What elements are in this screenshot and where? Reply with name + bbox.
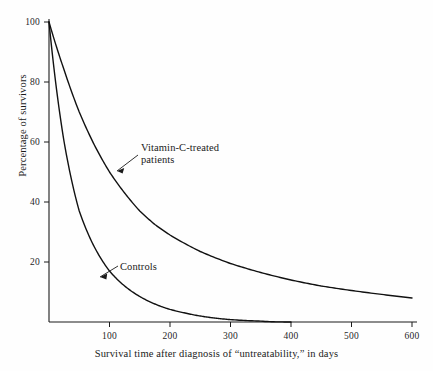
survival-curve-figure: 100 80 60 40 20 100 200 300 400 500 600 … [0,0,433,371]
annotation-controls: Controls [120,261,157,273]
x-axis-title: Survival time after diagnosis of “untrea… [0,348,433,359]
series-polyline-controls [49,22,291,322]
x-tick-label-200: 200 [163,331,178,341]
leader-line-vitamin-c [117,155,138,174]
y-tick-label-40: 40 [16,197,40,207]
y-tick-marks [44,22,49,262]
plot-svg [0,0,433,371]
x-tick-label-300: 300 [223,331,238,341]
x-tick-label-100: 100 [102,331,117,341]
y-tick-label-20: 20 [16,257,40,267]
annotation-vitamin-c: Vitamin-C-treated patients [141,142,219,167]
y-axis-title: Percentage of survivors [17,56,28,196]
x-tick-label-400: 400 [284,331,299,341]
x-tick-label-500: 500 [344,331,359,341]
y-tick-label-100: 100 [16,17,40,27]
x-tick-label-600: 600 [405,331,420,341]
series-polyline-vitamin-c [49,22,412,298]
x-tick-marks [110,322,413,327]
